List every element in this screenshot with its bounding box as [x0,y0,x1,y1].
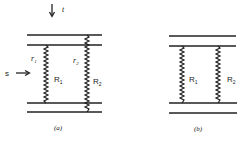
resistor-r2 [85,35,89,112]
resistor-r2 [216,46,220,103]
diagram: t s r1 r2 R1 R2 (a) R1 R2 (b) [0,0,243,142]
panel-a [16,4,102,112]
caption-a: (a) [54,124,63,132]
label-R2: R2 [227,75,236,85]
caption-b: (b) [194,125,203,133]
panel-b-labels: R1 R2 (b) [189,75,236,133]
label-r2: r2 [73,56,79,66]
resistor-r1 [44,45,48,103]
label-R1: R1 [54,75,63,85]
label-R2: R2 [93,77,102,87]
label-s: s [5,69,9,78]
label-t: t [62,5,65,14]
label-r1: r1 [31,54,37,64]
resistor-r1 [180,46,184,103]
label-R1: R1 [189,75,198,85]
